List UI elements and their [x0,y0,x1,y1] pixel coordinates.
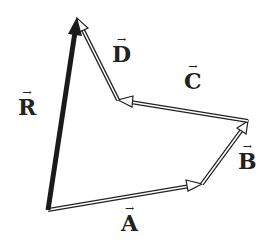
vector-r [48,17,82,210]
vector-arrow-icon: → [18,87,36,98]
label-b: → B [238,150,257,172]
vector-arrow-icon: → [184,61,202,72]
label-r: → R [18,96,36,118]
vector-arrow-icon: → [112,34,131,45]
vector-diagram: → A → B → C → D → R [0,0,269,248]
label-c: → C [184,70,202,92]
vector-c [118,96,248,121]
label-d: → D [112,43,131,65]
vector-arrow-icon: → [238,141,257,152]
vector-arrow-icon: → [121,203,138,214]
label-a: → A [121,212,138,234]
